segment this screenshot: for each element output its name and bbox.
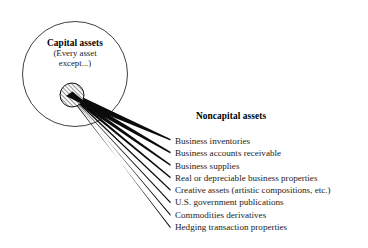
diagram-canvas: Capital assets (Every asset except...) N…	[0, 0, 368, 248]
list-item: Business inventories	[175, 135, 368, 147]
list-item: Business accounts receivable	[175, 147, 368, 159]
capital-assets-label-block: Capital assets (Every asset except...)	[23, 38, 127, 69]
list-item: U.S. government publications	[175, 196, 368, 208]
list-item: Real or depreciable business properties	[175, 172, 368, 184]
diagram-text-layer: Capital assets (Every asset except...) N…	[0, 0, 368, 248]
capital-assets-title: Capital assets	[23, 38, 127, 48]
list-item: Business supplies	[175, 160, 368, 172]
list-item: Hedging transaction properties	[175, 221, 368, 233]
capital-assets-subtitle-line-2: except...)	[23, 59, 127, 69]
list-item: Commodities derivatives	[175, 209, 368, 221]
noncapital-assets-heading: Noncapital assets	[196, 111, 266, 121]
list-item: Creative assets (artistic compositions, …	[175, 184, 368, 196]
noncapital-assets-list: Business inventories Business accounts r…	[175, 135, 368, 233]
